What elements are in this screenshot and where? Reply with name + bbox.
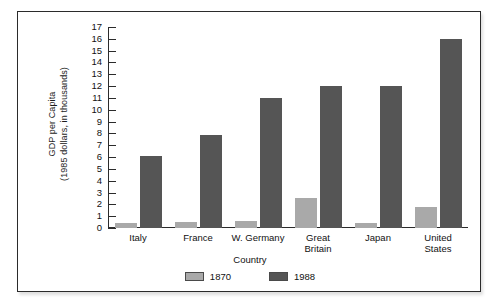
bar-1988-japan <box>380 86 402 228</box>
x-axis-category-label: Italy <box>108 232 168 243</box>
x-axis-category-label: UnitedStates <box>408 232 468 254</box>
y-axis-tick-label: 8 <box>80 127 102 138</box>
y-axis-tick-label: 17 <box>80 21 102 32</box>
y-axis-tick-label: 11 <box>80 92 102 103</box>
x-axis-category-label: GreatBritain <box>288 232 348 254</box>
y-axis-tick-label: 1 <box>80 210 102 221</box>
x-axis-category-label: W. Germany <box>228 232 288 243</box>
x-axis-category-label-line: Britain <box>288 243 348 254</box>
y-axis-tick-label: 13 <box>80 68 102 79</box>
x-axis-category-label-line: Italy <box>108 232 168 243</box>
y-axis-tick <box>108 228 116 229</box>
legend-item-1870: 1870 <box>185 271 231 282</box>
y-axis-tick-label: 16 <box>80 33 102 44</box>
x-axis-category-label-line: Japan <box>348 232 408 243</box>
y-axis-tick-label: 14 <box>80 56 102 67</box>
bar-1988-great-britain <box>320 86 342 228</box>
y-axis-title-line1: GDP per Capita <box>46 29 58 219</box>
bars-layer <box>108 27 468 228</box>
x-axis-category-label-line: France <box>168 232 228 243</box>
bar-1988-united-states <box>440 39 462 228</box>
bar-1870-w-germany <box>235 221 257 228</box>
chart-figure-frame: GDP per Capita (1985 dollars, in thousan… <box>17 11 481 292</box>
y-axis-tick-label: 12 <box>80 80 102 91</box>
bar-1988-w-germany <box>260 98 282 228</box>
x-axis-category-label-line: States <box>408 243 468 254</box>
y-axis-tick-label: 0 <box>80 222 102 233</box>
bar-1870-italy <box>115 223 137 228</box>
x-axis-category-label-line: W. Germany <box>228 232 288 243</box>
x-axis-title: Country <box>18 254 482 265</box>
y-axis-tick-label: 15 <box>80 45 102 56</box>
bar-1870-japan <box>355 223 377 228</box>
legend-swatch-1988 <box>269 272 288 281</box>
y-axis-tick-label: 4 <box>80 175 102 186</box>
x-axis-category-label-line: Great <box>288 232 348 243</box>
x-axis-category-label: France <box>168 232 228 243</box>
x-axis-category-label: Japan <box>348 232 408 243</box>
y-axis-tick-label: 6 <box>80 151 102 162</box>
bar-1870-great-britain <box>295 198 317 228</box>
y-axis-tick-label: 3 <box>80 187 102 198</box>
y-axis-title: GDP per Capita (1985 dollars, in thousan… <box>46 29 70 219</box>
y-axis-tick-label: 7 <box>80 139 102 150</box>
legend-item-1988: 1988 <box>269 271 315 282</box>
chart-legend: 18701988 <box>18 271 482 282</box>
y-axis-tick-label: 5 <box>80 163 102 174</box>
y-axis-tick-label: 9 <box>80 116 102 127</box>
x-axis-category-label-line: United <box>408 232 468 243</box>
legend-label-1988: 1988 <box>294 271 315 282</box>
plot-area: GDP per Capita (1985 dollars, in thousan… <box>18 12 482 293</box>
y-axis-title-line2: (1985 dollars, in thousands) <box>58 29 70 219</box>
y-axis-tick-label: 2 <box>80 198 102 209</box>
y-axis-tick-label: 10 <box>80 104 102 115</box>
legend-label-1870: 1870 <box>210 271 231 282</box>
bar-1988-france <box>200 135 222 228</box>
bar-1988-italy <box>140 156 162 228</box>
bar-1870-united-states <box>415 207 437 228</box>
legend-swatch-1870 <box>185 272 204 281</box>
bar-1870-france <box>175 222 197 228</box>
